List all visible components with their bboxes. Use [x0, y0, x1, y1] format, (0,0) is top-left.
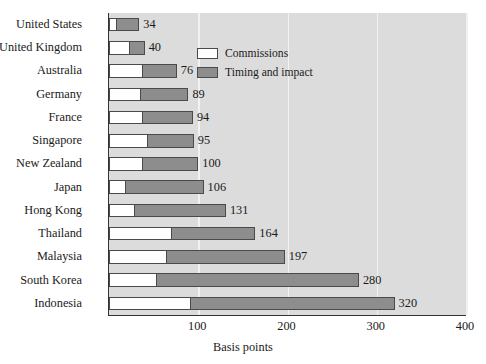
bar-value-label: 100	[198, 152, 220, 175]
bar-segment-commissions	[109, 297, 191, 311]
bar-row: Thailand164	[109, 222, 466, 245]
category-label: Malaysia	[0, 245, 82, 268]
bar-segment-timing-and-impact	[135, 204, 226, 218]
bar-value-label: 164	[255, 222, 277, 245]
category-label: Australia	[0, 59, 82, 82]
legend-label: Commissions	[225, 47, 288, 60]
category-label: South Korea	[0, 269, 82, 292]
bar-row: South Korea280	[109, 269, 466, 292]
stacked-bar	[109, 111, 193, 125]
bar-value-label: 40	[145, 36, 161, 59]
bar-row: Indonesia320	[109, 292, 466, 315]
chart-legend: CommissionsTiming and impact	[197, 45, 313, 83]
stacked-bar	[109, 157, 198, 171]
bar-segment-timing-and-impact	[172, 227, 255, 241]
bar-segment-commissions	[109, 134, 148, 148]
category-label: United Kingdom	[0, 36, 82, 59]
bar-segment-commissions	[109, 250, 167, 264]
bar-value-label: 320	[395, 292, 417, 315]
bar-row: Hong Kong131	[109, 199, 466, 222]
stacked-bar	[109, 64, 177, 78]
category-label: United States	[0, 13, 82, 36]
bar-row: France94	[109, 106, 466, 129]
x-tick-label-100: 100	[188, 319, 206, 334]
category-label: France	[0, 106, 82, 129]
stacked-bar	[109, 18, 139, 32]
bar-row: New Zealand100	[109, 152, 466, 175]
category-label: Singapore	[0, 129, 82, 152]
bar-segment-timing-and-impact	[130, 41, 144, 55]
stacked-bar	[109, 297, 395, 311]
bar-value-label: 76	[177, 59, 193, 82]
category-label: New Zealand	[0, 152, 82, 175]
bar-segment-timing-and-impact	[117, 18, 139, 32]
bar-segment-commissions	[109, 88, 141, 102]
bar-value-label: 95	[194, 129, 210, 152]
bar-segment-commissions	[109, 64, 143, 78]
stacked-bar	[109, 273, 359, 287]
bar-segment-timing-and-impact	[148, 134, 194, 148]
bar-segment-commissions	[109, 180, 126, 194]
bar-value-label: 131	[226, 199, 248, 222]
bar-segment-commissions	[109, 157, 143, 171]
bar-segment-commissions	[109, 273, 157, 287]
bar-segment-timing-and-impact	[191, 297, 394, 311]
bar-value-label: 94	[193, 106, 209, 129]
legend-item: Timing and impact	[197, 64, 313, 81]
legend-label: Timing and impact	[225, 66, 313, 79]
bar-segment-commissions	[109, 111, 143, 125]
chart-figure: United States34United Kingdom40Australia…	[0, 0, 486, 364]
x-tick-label-300: 300	[367, 319, 385, 334]
bar-value-label: 197	[285, 245, 307, 268]
stacked-bar	[109, 180, 204, 194]
bar-row: United States34	[109, 13, 466, 36]
bar-value-label: 34	[139, 13, 155, 36]
stacked-bar	[109, 204, 226, 218]
category-label: Hong Kong	[0, 199, 82, 222]
gridline-400	[466, 13, 468, 315]
legend-swatch-timing	[197, 67, 218, 78]
bar-segment-commissions	[109, 18, 117, 32]
category-label: Germany	[0, 83, 82, 106]
legend-item: Commissions	[197, 45, 313, 62]
bar-segment-commissions	[109, 204, 135, 218]
bar-row: Singapore95	[109, 129, 466, 152]
bar-segment-timing-and-impact	[143, 64, 177, 78]
stacked-bar	[109, 250, 285, 264]
bar-segment-timing-and-impact	[167, 250, 285, 264]
bar-segment-timing-and-impact	[143, 111, 193, 125]
bar-value-label: 106	[204, 176, 226, 199]
bar-value-label: 280	[359, 269, 381, 292]
bar-segment-timing-and-impact	[157, 273, 359, 287]
stacked-bar	[109, 227, 255, 241]
stacked-bar	[109, 134, 194, 148]
category-label: Thailand	[0, 222, 82, 245]
bar-segment-commissions	[109, 227, 172, 241]
bar-segment-commissions	[109, 41, 130, 55]
bar-row: Malaysia197	[109, 245, 466, 268]
bar-row: Japan106	[109, 176, 466, 199]
x-axis-title: Basis points	[0, 340, 486, 355]
bar-segment-timing-and-impact	[141, 88, 188, 102]
legend-swatch-commissions	[197, 48, 218, 59]
x-tick-label-400: 400	[456, 319, 474, 334]
x-tick-label-200: 200	[277, 319, 295, 334]
category-label: Indonesia	[0, 292, 82, 315]
bar-row: Germany89	[109, 83, 466, 106]
stacked-bar	[109, 41, 145, 55]
bar-segment-timing-and-impact	[143, 157, 198, 171]
stacked-bar	[109, 88, 188, 102]
category-label: Japan	[0, 176, 82, 199]
bar-value-label: 89	[188, 83, 204, 106]
bar-segment-timing-and-impact	[126, 180, 204, 194]
